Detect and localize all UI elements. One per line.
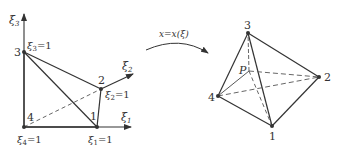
xi3-eq-1-label: ξ3=1 bbox=[27, 40, 52, 53]
edge-4-1 bbox=[218, 96, 272, 126]
xi4-eq-1-label: ξ4=1 bbox=[17, 134, 42, 147]
node-1-label: 1 bbox=[269, 130, 276, 143]
xi2-eq-1-label: ξ2=1 bbox=[105, 89, 130, 102]
tetrahedron-mapping-diagram: ξ3 ξ2 ξ1 3 2 1 4 ξ3=1 ξ2=1 ξ4=1 ξ1=1 x=x… bbox=[0, 0, 342, 152]
xi1-eq-1-label: ξ1=1 bbox=[88, 134, 113, 147]
mapping-label: x=x(ξ) bbox=[159, 29, 189, 39]
reference-element: ξ3 ξ2 ξ1 3 2 1 4 ξ3=1 ξ2=1 ξ4=1 ξ1=1 bbox=[9, 14, 133, 147]
node-2 bbox=[317, 75, 321, 79]
mapping-arrow: x=x(ξ) bbox=[146, 29, 208, 53]
edge-3-1 bbox=[248, 33, 272, 126]
node-4 bbox=[216, 94, 220, 98]
node-3 bbox=[22, 50, 26, 54]
xi1-axis-label: ξ1 bbox=[121, 111, 132, 125]
node-4-label: 4 bbox=[27, 111, 34, 124]
node-1-label: 1 bbox=[90, 110, 97, 123]
curved-arrow-icon bbox=[146, 43, 208, 53]
point-p-label: P bbox=[238, 64, 247, 77]
p-to-3-dashed bbox=[248, 33, 249, 71]
node-3-label: 3 bbox=[244, 19, 251, 32]
edge-2-1 bbox=[272, 77, 319, 126]
node-2 bbox=[99, 87, 103, 91]
edge-3-1 bbox=[24, 52, 97, 127]
xi2-axis-label: ξ2 bbox=[122, 60, 133, 74]
edge-3-2 bbox=[24, 52, 101, 89]
xi2-axis bbox=[101, 74, 133, 89]
node-4-label: 4 bbox=[208, 91, 215, 104]
xi3-axis-label: ξ3 bbox=[9, 14, 20, 28]
edge-2-1 bbox=[97, 89, 101, 127]
node-4 bbox=[22, 125, 26, 129]
node-1 bbox=[95, 125, 99, 129]
node-2-label: 2 bbox=[324, 71, 331, 84]
node-2-label: 2 bbox=[98, 74, 105, 87]
node-1 bbox=[270, 124, 274, 128]
node-3-label: 3 bbox=[14, 46, 21, 59]
edge-3-2 bbox=[248, 33, 319, 77]
physical-element: 3 2 4 1 P bbox=[208, 19, 331, 143]
